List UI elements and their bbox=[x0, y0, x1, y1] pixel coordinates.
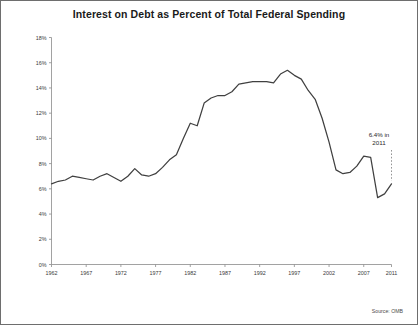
annotation-label: 6.4% in 2011 bbox=[353, 131, 405, 147]
y-axis-tick-label: 8% bbox=[39, 161, 47, 167]
x-axis-tick-label: 1967 bbox=[80, 270, 92, 276]
x-axis-tick-label: 1977 bbox=[150, 270, 162, 276]
x-axis-tick-label: 1992 bbox=[254, 270, 266, 276]
x-axis-tick-label: 2002 bbox=[323, 270, 335, 276]
y-axis-tick-label: 6% bbox=[39, 186, 47, 192]
chart-figure: Interest on Debt as Percent of Total Fed… bbox=[0, 0, 418, 325]
y-axis-tick-label: 18% bbox=[36, 35, 47, 41]
x-axis: 1962196719721977198219871992199720022007… bbox=[46, 265, 398, 276]
y-axis-tick-label: 10% bbox=[36, 135, 47, 141]
y-axis-tick-label: 0% bbox=[39, 262, 47, 268]
data-series-line bbox=[52, 70, 392, 197]
chart-plot-area: 0%2%4%6%8%10%12%14%16%18% 19621967197219… bbox=[1, 1, 418, 325]
x-axis-tick-label: 1962 bbox=[46, 270, 58, 276]
y-axis-tick-label: 12% bbox=[36, 110, 47, 116]
x-axis-tick-label: 1987 bbox=[219, 270, 231, 276]
y-axis-tick-label: 14% bbox=[36, 85, 47, 91]
axis-frame-lines bbox=[52, 38, 392, 265]
y-axis: 0%2%4%6%8%10%12%14%16%18% bbox=[36, 35, 52, 268]
y-axis-tick-label: 2% bbox=[39, 236, 47, 242]
y-axis-tick-label: 4% bbox=[39, 211, 47, 217]
source-note: Source: OMB bbox=[372, 308, 403, 314]
x-axis-tick-label: 1972 bbox=[115, 270, 127, 276]
x-axis-tick-label: 1982 bbox=[184, 270, 196, 276]
x-axis-tick-label: 1997 bbox=[288, 270, 300, 276]
x-axis-tick-label: 2007 bbox=[358, 270, 370, 276]
annotation-line-1: 6.4% in bbox=[353, 131, 405, 139]
annotation-line-2: 2011 bbox=[353, 139, 405, 147]
x-axis-tick-label: 2011 bbox=[386, 270, 398, 276]
y-axis-tick-label: 16% bbox=[36, 60, 47, 66]
